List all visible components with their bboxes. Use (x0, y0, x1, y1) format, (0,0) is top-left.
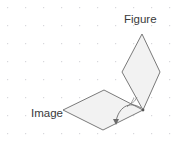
figure-label: Figure (124, 13, 157, 25)
pivot-vertex-dot (142, 109, 145, 112)
diagram-canvas: Figure Image (0, 0, 184, 149)
figure-rhombus[interactable] (122, 34, 160, 110)
image-label: Image (31, 107, 63, 119)
image-rhombus[interactable] (63, 90, 143, 130)
